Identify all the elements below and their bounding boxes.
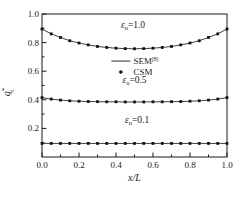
csm-marker bbox=[78, 42, 81, 45]
csm-marker bbox=[179, 43, 182, 46]
csm-marker bbox=[216, 98, 219, 101]
csm-marker bbox=[124, 142, 127, 145]
csm-marker bbox=[216, 142, 219, 145]
csm-marker bbox=[133, 101, 136, 104]
csm-marker bbox=[170, 45, 173, 48]
csm-marker bbox=[142, 47, 145, 50]
csm-marker bbox=[179, 100, 182, 103]
csm-marker bbox=[115, 142, 118, 145]
csm-marker bbox=[68, 39, 71, 42]
csm-marker bbox=[41, 96, 44, 99]
csm-marker bbox=[226, 28, 229, 31]
csm-marker bbox=[189, 42, 192, 45]
csm-marker bbox=[189, 100, 192, 103]
csm-marker bbox=[68, 99, 71, 102]
csm-marker bbox=[226, 96, 229, 99]
csm-marker bbox=[68, 142, 71, 145]
csm-marker bbox=[133, 142, 136, 145]
x-tick-label: 0.4 bbox=[110, 160, 122, 170]
csm-marker bbox=[105, 100, 108, 103]
plot-frame bbox=[42, 14, 227, 157]
csm-marker bbox=[207, 36, 210, 39]
csm-marker bbox=[115, 47, 118, 50]
csm-marker bbox=[41, 28, 44, 31]
csm-marker bbox=[216, 32, 219, 35]
csm-marker bbox=[105, 46, 108, 49]
csm-marker bbox=[59, 99, 62, 102]
csm-marker bbox=[179, 142, 182, 145]
csm-marker bbox=[152, 142, 155, 145]
csm-marker bbox=[207, 99, 210, 102]
legend-label: CSM bbox=[133, 67, 152, 77]
csm-marker bbox=[198, 39, 201, 42]
x-tick-label: 1.0 bbox=[221, 160, 233, 170]
csm-marker bbox=[133, 47, 136, 50]
legend-label: SEM[8] bbox=[133, 56, 158, 67]
csm-marker bbox=[207, 142, 210, 145]
csm-marker bbox=[96, 142, 99, 145]
csm-marker bbox=[142, 101, 145, 104]
csm-marker bbox=[152, 47, 155, 50]
csm-marker bbox=[50, 32, 53, 35]
csm-marker bbox=[78, 100, 81, 103]
chart-canvas: 0.00.20.40.60.81.00.20.40.60.81.0εu=1.0ε… bbox=[0, 0, 248, 197]
csm-marker bbox=[170, 142, 173, 145]
csm-marker bbox=[226, 142, 229, 145]
csm-marker bbox=[152, 100, 155, 103]
csm-marker bbox=[87, 43, 90, 46]
csm-marker bbox=[115, 100, 118, 103]
legend-dot-sample bbox=[119, 70, 123, 74]
csm-marker bbox=[124, 101, 127, 104]
csm-marker bbox=[59, 142, 62, 145]
figure: 0.00.20.40.60.81.00.20.40.60.81.0εu=1.0ε… bbox=[0, 0, 248, 197]
y-tick-label: 0.8 bbox=[28, 38, 40, 48]
csm-marker bbox=[161, 142, 164, 145]
csm-marker bbox=[87, 142, 90, 145]
curve-label: εu=1.0 bbox=[121, 20, 145, 31]
x-tick-label: 0.6 bbox=[147, 160, 159, 170]
csm-marker bbox=[198, 142, 201, 145]
sem-line-eps_u=1.0 bbox=[42, 29, 227, 49]
csm-marker bbox=[170, 100, 173, 103]
csm-marker bbox=[50, 142, 53, 145]
csm-marker bbox=[189, 142, 192, 145]
csm-marker bbox=[161, 100, 164, 103]
csm-marker bbox=[105, 142, 108, 145]
y-tick-label: 0.2 bbox=[28, 123, 39, 133]
csm-marker bbox=[50, 98, 53, 101]
csm-marker bbox=[78, 142, 81, 145]
csm-marker bbox=[161, 46, 164, 49]
csm-marker bbox=[198, 99, 201, 102]
y-tick-label: 1.0 bbox=[28, 9, 40, 19]
x-axis-label: x/L bbox=[127, 172, 141, 183]
csm-marker bbox=[96, 100, 99, 103]
y-axis-label: q*t bbox=[0, 87, 15, 96]
csm-marker bbox=[124, 47, 127, 50]
y-tick-label: 0.6 bbox=[28, 66, 40, 76]
csm-marker bbox=[59, 36, 62, 39]
x-tick-label: 0.8 bbox=[184, 160, 196, 170]
csm-marker bbox=[87, 100, 90, 103]
csm-marker bbox=[41, 142, 44, 145]
csm-marker bbox=[142, 142, 145, 145]
curve-label: εu=0.1 bbox=[125, 115, 149, 126]
x-tick-label: 0.0 bbox=[36, 160, 48, 170]
x-tick-label: 0.2 bbox=[73, 160, 84, 170]
csm-marker bbox=[96, 45, 99, 48]
y-tick-label: 0.4 bbox=[28, 95, 40, 105]
